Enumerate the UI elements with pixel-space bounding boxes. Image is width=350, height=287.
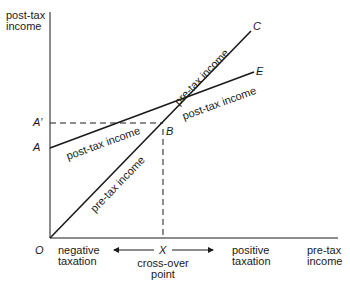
point-label-e: E [256, 65, 264, 77]
point-label-c: C [253, 20, 261, 32]
point-label-a-prime: A′ [32, 116, 43, 128]
positive-taxation-line2: taxation [232, 255, 271, 267]
point-label-origin: O [35, 244, 44, 256]
pre-tax-income-label-lower: pre-tax income [88, 154, 147, 215]
negative-taxation-line2: taxation [58, 255, 97, 267]
point-label-b: B [166, 125, 173, 137]
x-axis-label-line2: income [307, 255, 342, 267]
y-axis-label-line2: income [6, 20, 41, 32]
point-label-x: X [158, 244, 167, 256]
post-tax-income-line [50, 72, 254, 148]
crossover-point-line2: point [151, 268, 175, 280]
point-label-a: A [32, 141, 40, 153]
tax-diagram: O A A′ B C E X post-tax income pre-tax i… [0, 0, 350, 287]
